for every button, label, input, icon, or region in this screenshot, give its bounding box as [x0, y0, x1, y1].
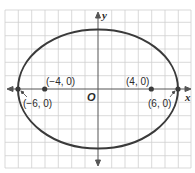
y-axis-label: y	[100, 9, 107, 21]
vertex-left-point	[15, 86, 20, 91]
focus-left-point	[42, 86, 47, 91]
origin-label: O	[87, 91, 96, 103]
x-axis-label: x	[184, 91, 191, 103]
focus-right-point	[149, 86, 154, 91]
axes	[7, 12, 191, 166]
vertex-left-label: (−6, 0)	[23, 98, 52, 109]
y-axis-up-arrow-icon	[96, 12, 101, 18]
focus-right-label: (4, 0)	[126, 76, 149, 87]
x-axis-left-arrow-icon	[7, 87, 13, 92]
y-axis-down-arrow-icon	[96, 160, 101, 166]
ellipse-diagram: y x O (−4, 0) (4, 0) (−6, 0) (6, 0)	[0, 0, 195, 173]
vertex-right-label: (6, 0)	[148, 98, 171, 109]
focus-left-label: (−4, 0)	[46, 76, 75, 87]
vertex-right-point	[175, 86, 180, 91]
